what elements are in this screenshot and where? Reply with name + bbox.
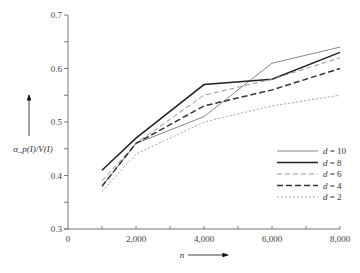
y-tick-label: 0.5	[51, 117, 63, 127]
x-tick-label: 8,000	[330, 234, 351, 244]
series-line	[102, 52, 340, 170]
series-line	[102, 69, 340, 187]
y-tick-label: 0.4	[51, 171, 63, 181]
legend-label: d = 8	[323, 158, 342, 168]
x-axis-title: n	[180, 250, 185, 260]
legend-label: d = 2	[323, 192, 342, 202]
legend: d = 10d = 8d = 6d = 4d = 2	[277, 146, 347, 202]
y-tick-label: 0.6	[51, 64, 63, 74]
y-tick-label: 0.3	[51, 224, 63, 234]
series-line	[102, 47, 340, 186]
legend-label: d = 6	[323, 169, 342, 179]
legend-label: d = 10	[323, 146, 347, 156]
legend-label: d = 4	[323, 181, 342, 191]
x-tick-label: 6,000	[262, 234, 283, 244]
line-chart: 0.30.40.50.60.702,0004,0006,0008,000 d =…	[0, 0, 360, 273]
x-tick-label: 2,000	[126, 234, 147, 244]
data-lines	[102, 47, 340, 191]
y-tick-label: 0.7	[51, 10, 63, 20]
y-axis-title: α_p(I)/V(I)	[13, 144, 53, 154]
x-tick-label: 4,000	[194, 234, 215, 244]
series-line	[102, 95, 340, 191]
x-tick-label: 0	[66, 234, 71, 244]
axes: 0.30.40.50.60.702,0004,0006,0008,000	[51, 10, 351, 244]
